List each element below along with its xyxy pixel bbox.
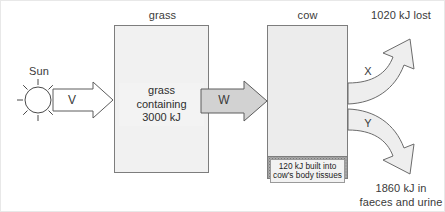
- arrow-y-label: Y: [359, 117, 377, 130]
- arrow-w-label: W: [213, 94, 235, 107]
- arrow-x: [348, 39, 414, 104]
- arrow-x-label: X: [359, 65, 377, 78]
- energy-lost-label: 1020 kJ lost: [358, 9, 444, 22]
- faeces-urine-label: 1860 kJ in faeces and urine: [357, 181, 445, 209]
- energy-flow-diagram: grass grass containing 3000 kJ cow 120 k…: [0, 0, 445, 212]
- arrow-y: [348, 109, 414, 174]
- arrow-v-label: V: [61, 94, 83, 107]
